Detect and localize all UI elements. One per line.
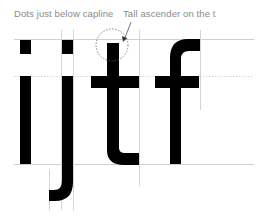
glyph-canvas: [0, 0, 268, 221]
i-dot: [20, 40, 31, 54]
glyph-i: [20, 40, 31, 164]
glyph-f: [155, 39, 200, 164]
i-stem: [20, 76, 31, 164]
typography-diagram: Dots just below capline Tall ascender on…: [0, 0, 268, 221]
f-stem: [170, 39, 200, 164]
f-crossbar: [155, 76, 199, 88]
glyph-t: [91, 43, 139, 165]
t-crossbar: [91, 76, 139, 88]
j-dot: [62, 40, 73, 54]
